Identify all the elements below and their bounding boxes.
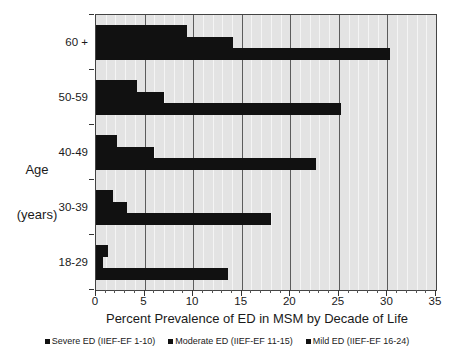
- x-tick-minor: [221, 290, 222, 293]
- x-tick-minor: [367, 290, 368, 293]
- x-axis-title: Percent Prevalence of ED in MSM by Decad…: [60, 311, 454, 326]
- bar: [96, 80, 137, 92]
- x-tick-label-20: 20: [283, 295, 296, 307]
- x-tick-label-5: 5: [140, 295, 146, 307]
- bar: [96, 48, 390, 60]
- bar: [96, 245, 108, 257]
- x-tick-minor: [425, 290, 426, 293]
- x-tick-minor: [416, 290, 417, 293]
- y-tick-label-40-49: 40-49: [32, 146, 88, 158]
- bar: [96, 92, 164, 104]
- x-tick-minor: [406, 290, 407, 293]
- y-tick-mark: [89, 69, 94, 70]
- x-tick-minor: [309, 290, 310, 293]
- x-tick-minor: [357, 290, 358, 293]
- legend-entry: Mild ED (IIEF-EF 16-24): [306, 336, 410, 346]
- legend-swatch-icon: [306, 339, 311, 344]
- plot-area: [95, 14, 437, 291]
- x-tick-minor: [260, 290, 261, 293]
- y-tick-mark: [89, 14, 94, 15]
- y-tick-label-50-59: 50-59: [32, 91, 88, 103]
- x-tick-minor: [328, 290, 329, 293]
- bar: [96, 268, 228, 280]
- bar: [96, 135, 117, 147]
- y-tick-label-18-29: 18-29: [32, 256, 88, 268]
- bar: [96, 37, 233, 49]
- x-tick-minor: [299, 290, 300, 293]
- y-tick-mark: [89, 289, 94, 290]
- x-tick-minor: [173, 290, 174, 293]
- bar: [96, 158, 316, 170]
- legend-swatch-icon: [168, 339, 173, 344]
- bar-chart-figure: Age (years) 18-2930-3940-4950-5960 + 051…: [0, 0, 454, 359]
- x-tick-minor: [250, 290, 251, 293]
- x-tick-minor: [377, 290, 378, 293]
- y-tick-mark: [89, 234, 94, 235]
- x-tick-minor: [124, 290, 125, 293]
- gridline-minor: [417, 15, 418, 290]
- bar: [96, 202, 127, 214]
- x-tick-minor: [134, 290, 135, 293]
- legend-label: Severe ED (IIEF-EF 1-10): [52, 336, 156, 346]
- x-tick-minor: [182, 290, 183, 293]
- bar: [96, 25, 187, 37]
- bar: [96, 103, 341, 115]
- gridline-minor: [407, 15, 408, 290]
- x-tick-label-group: 05101520253035: [95, 295, 435, 311]
- x-tick-label-10: 10: [186, 295, 199, 307]
- y-tick-label-30-39: 30-39: [32, 201, 88, 213]
- x-tick-minor: [212, 290, 213, 293]
- x-tick-minor: [396, 290, 397, 293]
- legend-entry: Moderate ED (IIEF-EF 11-15): [168, 336, 292, 346]
- y-tick-label-60-: 60 +: [32, 36, 88, 48]
- bar: [96, 257, 103, 269]
- x-tick-label-15: 15: [234, 295, 247, 307]
- x-tick-minor: [270, 290, 271, 293]
- x-tick-minor: [202, 290, 203, 293]
- y-tick-label-group: 18-2930-3940-4950-5960 +: [24, 0, 88, 359]
- legend-entry: Severe ED (IIEF-EF 1-10): [45, 336, 156, 346]
- x-tick-minor: [348, 290, 349, 293]
- chart-legend: Severe ED (IIEF-EF 1-10)Moderate ED (IIE…: [0, 336, 454, 346]
- x-tick-minor: [231, 290, 232, 293]
- y-tick-mark: [89, 124, 94, 125]
- bar: [96, 190, 113, 202]
- gridline-minor: [426, 15, 427, 290]
- x-tick-minor: [153, 290, 154, 293]
- gridline-minor: [397, 15, 398, 290]
- bar: [96, 147, 154, 159]
- x-tick-minor: [318, 290, 319, 293]
- legend-label: Mild ED (IIEF-EF 16-24): [313, 336, 410, 346]
- y-tick-mark: [89, 179, 94, 180]
- x-tick-label-25: 25: [331, 295, 344, 307]
- legend-swatch-icon: [45, 339, 50, 344]
- x-tick-minor: [280, 290, 281, 293]
- x-tick-label-30: 30: [380, 295, 393, 307]
- legend-label: Moderate ED (IIEF-EF 11-15): [175, 336, 292, 346]
- x-tick-minor: [163, 290, 164, 293]
- x-tick-label-35: 35: [429, 295, 442, 307]
- x-tick-minor: [114, 290, 115, 293]
- x-tick-minor: [105, 290, 106, 293]
- x-tick-label-0: 0: [92, 295, 98, 307]
- bar: [96, 213, 271, 225]
